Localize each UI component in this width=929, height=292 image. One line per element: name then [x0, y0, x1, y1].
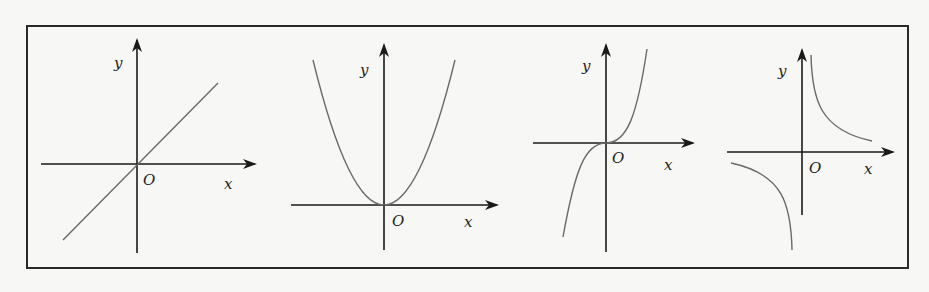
figure-frame	[27, 26, 908, 268]
x-axis-label: x	[864, 160, 873, 178]
y-axis-label: y	[359, 61, 369, 79]
graph-linear: y x O	[41, 40, 255, 253]
linear-curve	[63, 83, 218, 240]
x-axis-label: x	[464, 213, 473, 231]
hyperbola-upper-branch	[811, 55, 872, 141]
function-graphs-figure: y x O y x O y x O y x O	[0, 0, 929, 292]
origin-label: O	[392, 212, 404, 230]
y-axis-label: y	[777, 62, 787, 80]
origin-label: O	[143, 171, 155, 189]
origin-label: O	[612, 149, 624, 167]
origin-label: O	[809, 159, 821, 177]
graph-reciprocal: y x O	[727, 50, 893, 250]
x-axis-label: x	[224, 175, 233, 193]
y-axis-label: y	[581, 57, 591, 75]
x-axis-label: x	[664, 156, 673, 174]
graph-quadratic: y x O	[291, 45, 497, 250]
graph-cubic: y x O	[533, 45, 693, 252]
hyperbola-lower-branch	[731, 163, 792, 250]
y-axis-label: y	[113, 54, 123, 72]
